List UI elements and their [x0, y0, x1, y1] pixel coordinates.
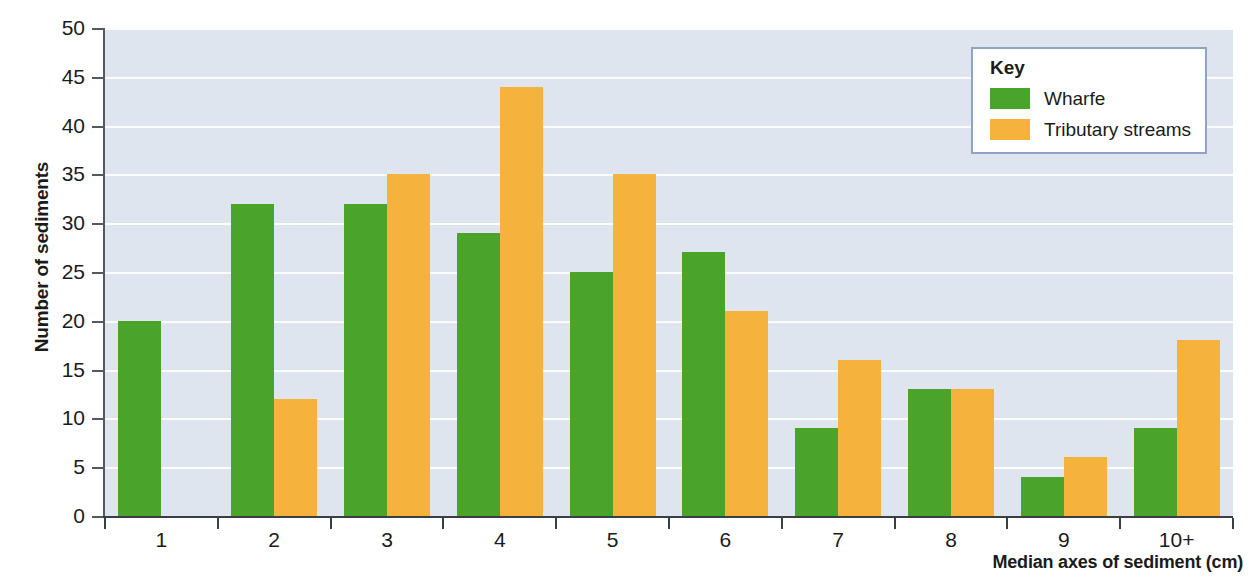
legend-label: Tributary streams — [1044, 119, 1191, 141]
y-tick-label: 30 — [25, 212, 85, 233]
x-axis-title: Median axes of sediment (cm) — [993, 552, 1243, 573]
y-tick-mark — [92, 516, 103, 518]
legend-item: Tributary streams — [990, 114, 1205, 145]
bar — [838, 360, 881, 516]
y-tick-mark — [92, 370, 103, 372]
y-tick-mark — [92, 126, 103, 128]
y-tick-label: 0 — [25, 505, 85, 526]
bar — [795, 428, 838, 516]
y-tick-mark — [92, 418, 103, 420]
y-tick-label: 10 — [25, 407, 85, 428]
bar — [274, 399, 317, 516]
y-tick-mark — [92, 28, 103, 30]
legend-swatch — [990, 88, 1030, 109]
bar — [1177, 340, 1220, 516]
x-tick-label: 3 — [327, 528, 447, 552]
gridline — [105, 321, 1233, 323]
bar — [118, 321, 161, 516]
x-tick-label: 7 — [778, 528, 898, 552]
bar — [457, 233, 500, 516]
legend-title: Key — [990, 57, 1205, 79]
gridline — [105, 28, 1233, 30]
gridline — [105, 223, 1233, 225]
bar — [1064, 457, 1107, 516]
y-tick-label: 20 — [25, 310, 85, 331]
bar — [908, 389, 951, 516]
x-tick-label: 9 — [1004, 528, 1124, 552]
gridline — [105, 272, 1233, 274]
legend-label: Wharfe — [1044, 88, 1105, 110]
x-tick-label: 4 — [440, 528, 560, 552]
y-tick-mark — [92, 77, 103, 79]
bar — [1134, 428, 1177, 516]
y-tick-label: 25 — [25, 261, 85, 282]
bar — [231, 204, 274, 516]
y-tick-mark — [92, 223, 103, 225]
legend-rows: WharfeTributary streams — [990, 83, 1205, 145]
gridline — [105, 370, 1233, 372]
y-tick-label: 15 — [25, 359, 85, 380]
x-tick-label: 2 — [214, 528, 334, 552]
y-tick-label: 50 — [25, 17, 85, 38]
legend: Key WharfeTributary streams — [971, 47, 1207, 154]
y-tick-label: 45 — [25, 66, 85, 87]
bar — [344, 204, 387, 516]
legend-swatch — [990, 119, 1030, 140]
x-tick-label: 6 — [665, 528, 785, 552]
bar — [570, 272, 613, 516]
bar — [682, 252, 725, 516]
y-tick-label: 40 — [25, 115, 85, 136]
y-tick-mark — [92, 174, 103, 176]
gridline — [105, 174, 1233, 176]
y-tick-label: 5 — [25, 456, 85, 477]
y-axis-line — [103, 28, 105, 518]
bar-chart: Number of sediments 05101520253035404550… — [0, 0, 1253, 588]
y-tick-mark — [92, 272, 103, 274]
bar — [951, 389, 994, 516]
y-tick-mark — [92, 321, 103, 323]
y-tick-mark — [92, 467, 103, 469]
bar — [500, 87, 543, 516]
x-tick-label: 5 — [553, 528, 673, 552]
bar — [1021, 477, 1064, 516]
bar — [387, 174, 430, 516]
x-tick-label: 1 — [101, 528, 221, 552]
bar — [613, 174, 656, 516]
y-tick-label: 35 — [25, 163, 85, 184]
legend-item: Wharfe — [990, 83, 1205, 114]
x-tick-label: 8 — [891, 528, 1011, 552]
x-tick-label: 10+ — [1117, 528, 1237, 552]
bar — [725, 311, 768, 516]
